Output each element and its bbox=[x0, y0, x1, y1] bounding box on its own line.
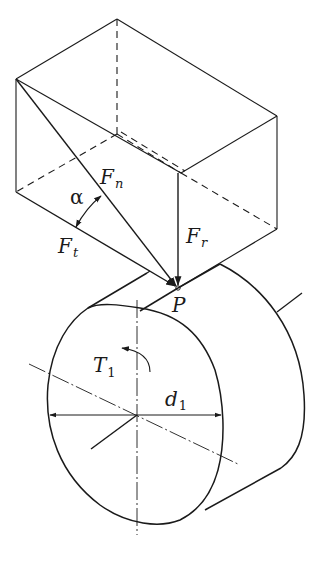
label-t1: T1 bbox=[93, 353, 116, 380]
top-tangent-line bbox=[178, 264, 220, 288]
label-ft: Ft bbox=[57, 234, 79, 260]
hidden-edges bbox=[16, 19, 277, 229]
label-d1: d1 bbox=[165, 387, 187, 413]
label-alpha: α bbox=[70, 185, 84, 209]
box-edge bbox=[181, 116, 277, 173]
front-rim-ellipse bbox=[47, 305, 223, 525]
ft-vector bbox=[16, 192, 175, 286]
label-p: P bbox=[171, 293, 186, 317]
force-vectors bbox=[16, 79, 178, 286]
back-shaft-stub bbox=[277, 293, 302, 312]
front-shaft-stub bbox=[91, 415, 137, 449]
label-fr: Fr bbox=[185, 224, 208, 250]
gear-force-diagram: Fn α Ft Fr P T1 d1 bbox=[0, 0, 318, 565]
top-tangent-line bbox=[88, 273, 147, 308]
back-rim-arc bbox=[220, 264, 304, 468]
box-edge bbox=[16, 19, 117, 79]
t1-torque-arrow bbox=[122, 348, 150, 372]
box-edge bbox=[16, 79, 181, 173]
fn-vector bbox=[16, 79, 176, 286]
box-edge bbox=[117, 19, 277, 116]
label-fn: Fn bbox=[99, 165, 123, 191]
